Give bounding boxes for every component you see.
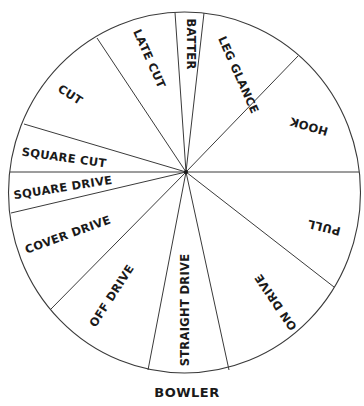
label-batter: BATTER: [184, 18, 198, 69]
hub-point: [184, 170, 188, 174]
cricket-shot-wheel: BATTER LEG GLANCE HOOK PULL ON DRIVE STR…: [0, 0, 364, 406]
label-straight-drive: STRAIGHT DRIVE: [178, 254, 192, 367]
bowler-caption: BOWLER: [154, 385, 219, 400]
